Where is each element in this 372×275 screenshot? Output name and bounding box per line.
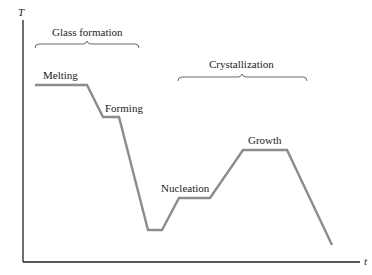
nucleation-label: Nucleation — [161, 182, 210, 194]
glass-formation-brace — [35, 41, 139, 48]
crystallization-label: Crystallization — [209, 58, 274, 70]
forming-label: Forming — [105, 102, 143, 114]
growth-label: Growth — [248, 134, 282, 146]
melting-label: Melting — [43, 69, 78, 81]
y-axis-label: T — [18, 6, 25, 18]
x-axis-label: t — [364, 255, 368, 267]
crystallization-brace — [178, 74, 307, 81]
temperature-curve — [35, 85, 332, 245]
glass-formation-label: Glass formation — [52, 26, 123, 38]
temperature-time-diagram: T t Glass formation Crystallization Melt… — [0, 0, 372, 275]
